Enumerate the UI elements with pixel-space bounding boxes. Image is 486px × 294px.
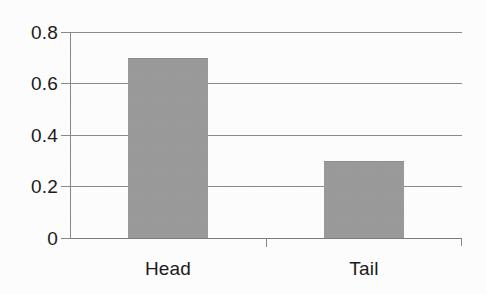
y-axis-label-0.8: 0.8 [12,23,58,42]
y-axis-label-0: 0 [12,229,58,248]
bar-tail [324,161,404,238]
y-axis-label-0.2: 0.2 [12,177,58,196]
bar-chart: 0.8 0.6 0.4 0.2 0 Head Tail [0,0,486,294]
y-axis-label-0.4: 0.4 [12,126,58,145]
y-tick-mark-0.6 [61,83,70,84]
y-tick-mark-0.2 [61,186,70,187]
y-tick-mark-0.4 [61,135,70,136]
plot-area [70,32,462,238]
x-axis-label-head: Head [128,258,208,280]
y-tick-mark-0 [61,238,70,239]
y-tick-mark-0.8 [61,32,70,33]
x-axis-tick-divider [266,238,267,247]
bar-head [128,58,208,238]
y-axis-line [70,32,71,239]
gridline-0.8 [70,32,462,33]
y-axis-label-0.6: 0.6 [12,74,58,93]
x-axis-label-tail: Tail [324,258,404,280]
x-axis-tick-right-end [461,238,462,246]
